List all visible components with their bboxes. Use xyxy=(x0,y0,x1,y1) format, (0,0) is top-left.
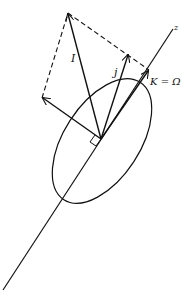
diagram-canvas: I j K = Ω z xyxy=(0,0,188,300)
label-I: I xyxy=(70,52,76,65)
right-angle-marker xyxy=(90,135,101,146)
label-z: z xyxy=(173,23,179,32)
dashed-edge-left xyxy=(42,13,68,98)
z-axis xyxy=(3,29,173,290)
label-K-omega: K = Ω xyxy=(149,76,181,87)
vector-K-omega xyxy=(101,71,148,139)
label-j: j xyxy=(111,66,118,79)
